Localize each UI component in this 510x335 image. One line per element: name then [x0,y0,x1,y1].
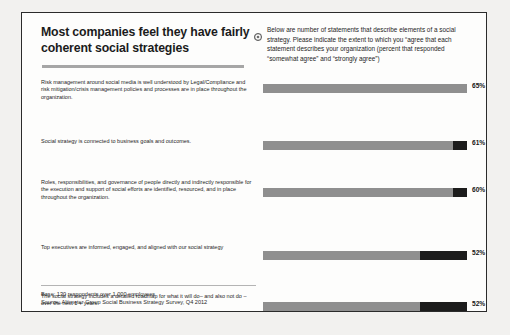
bar-segment-dark [420,302,467,311]
percent-value: 52% [472,300,496,307]
chart-rows: Risk management around social media is w… [22,79,486,289]
footer-base: Base: 130 respondents over 1,000 employe… [41,290,291,298]
title-underline [42,65,244,68]
chart-row: Risk management around social media is w… [22,79,486,104]
chart-row: There are clear metrics used throughout … [22,229,486,254]
chart-row: Social strategy is connected to business… [22,104,486,129]
chart-row: A long-term vision for how social media … [22,204,486,229]
circle-bullet-icon [254,27,262,35]
chart-row: Roles, responsibilities, and governance … [22,129,486,154]
slide-header: Most companies feel they have fairly coh… [22,13,486,79]
chart-row: The social strategy includes a detailed … [22,179,486,204]
page-title: Most companies feel they have fairly coh… [41,25,256,56]
bar-track [263,302,467,311]
chart-row: Employees at all levels are aware and tr… [22,254,486,279]
footer-divider [41,285,256,286]
statement-label: Risk management around social media is w… [41,79,255,101]
chart-row: Top executives are informed, engaged, an… [22,154,486,179]
bar-track [263,84,467,93]
footer-source: Source: Altimeter Group Social Business … [41,298,291,306]
percent-value: 65% [472,82,496,89]
question-prompt-text: Below are number of statements that desc… [267,25,476,63]
footer-notes: Base: 130 respondents over 1,000 employe… [41,290,291,306]
bar-segment-light [263,84,467,93]
question-prompt: Below are number of statements that desc… [254,25,476,63]
slide-frame: Most companies feel they have fairly coh… [21,12,487,312]
